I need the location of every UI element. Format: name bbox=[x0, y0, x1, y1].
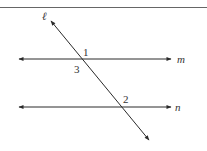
angle-2-label: 2 bbox=[123, 93, 129, 105]
parallel-lines-diagram: ℓ m n 1 3 2 bbox=[0, 0, 207, 151]
angle-1-label: 1 bbox=[83, 46, 89, 58]
transversal-line bbox=[51, 21, 149, 140]
label-m: m bbox=[177, 53, 185, 65]
label-l: ℓ bbox=[42, 10, 47, 22]
angle-3-label: 3 bbox=[74, 63, 80, 75]
label-n: n bbox=[175, 101, 181, 113]
